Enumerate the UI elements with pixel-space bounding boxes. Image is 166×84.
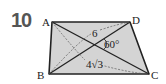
vertex-label-b: B [37,69,44,81]
length-label-ac: 4√3 [86,58,104,70]
vertex-label-a: A [42,16,50,28]
angle-label: 60° [104,38,119,50]
trapezoid-figure: A D B C 6 60° 4√3 [0,0,166,84]
length-label-bd: 6 [92,27,98,39]
vertex-label-d: D [132,14,140,26]
vertex-label-c: C [151,69,158,81]
